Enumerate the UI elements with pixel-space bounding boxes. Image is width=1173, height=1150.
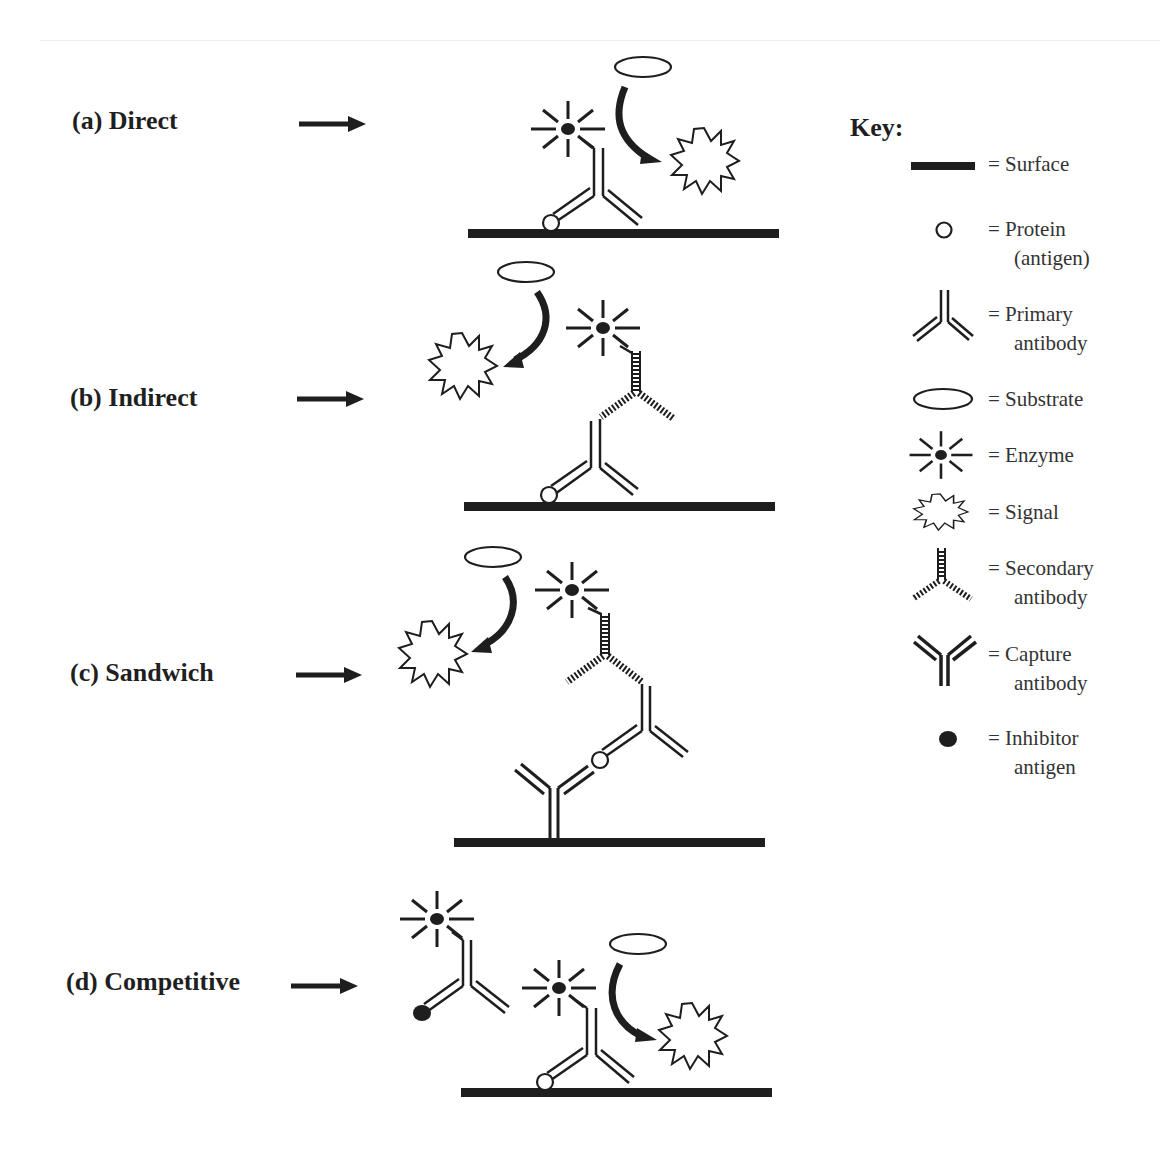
secondary-antibody-icon — [567, 613, 642, 682]
signal-icon — [399, 621, 467, 687]
reaction-arrow-icon — [484, 577, 513, 645]
competitive-assay-diagram — [400, 891, 772, 1097]
substrate-icon — [615, 57, 671, 77]
primary-antibody-icon — [551, 419, 638, 495]
reaction-arrow-icon — [515, 292, 546, 360]
signal-icon — [429, 333, 497, 399]
secondary-antibody-icon — [601, 351, 674, 419]
surface-icon — [461, 1088, 772, 1097]
direct-assay-diagram — [468, 57, 779, 238]
key-primary-antibody-icon — [913, 290, 973, 341]
protein-antigen-icon — [543, 215, 559, 231]
row-arrow-direct — [299, 116, 366, 132]
key-symbols — [910, 162, 976, 747]
sandwich-assay-diagram — [399, 547, 765, 847]
surface-icon — [468, 229, 779, 238]
surface-icon — [464, 502, 775, 511]
inhibitor-antigen-icon — [413, 1005, 431, 1021]
enzyme-icon — [535, 562, 609, 618]
protein-antigen-icon — [592, 752, 608, 768]
key-secondary-antibody-icon — [914, 548, 971, 599]
signal-icon — [659, 1003, 727, 1069]
reaction-arrow-icon — [619, 87, 648, 158]
substrate-icon — [498, 262, 554, 282]
key-enzyme-icon — [910, 431, 973, 479]
primary-antibody-icon — [602, 684, 688, 757]
primary-antibody-icon — [553, 140, 642, 225]
key-surface-icon — [911, 162, 975, 170]
row-arrow-sandwich — [296, 667, 362, 683]
surface-icon — [454, 838, 765, 847]
protein-antigen-icon — [541, 487, 557, 503]
enzyme-icon — [566, 300, 640, 356]
key-capture-antibody-icon — [914, 636, 976, 686]
key-signal-icon — [914, 494, 968, 530]
substrate-icon — [465, 547, 521, 567]
signal-icon — [671, 128, 739, 194]
substrate-icon — [610, 934, 666, 954]
key-inhibitor-antigen-icon — [939, 731, 957, 747]
indirect-assay-diagram — [429, 262, 775, 511]
diagram-canvas — [0, 0, 1173, 1150]
key-substrate-icon — [914, 389, 972, 409]
key-protein-icon — [937, 223, 952, 238]
row-arrow-indirect — [297, 391, 364, 407]
row-arrow-competitive — [291, 978, 358, 994]
capture-antibody-icon — [515, 764, 594, 838]
reaction-arrow-icon — [612, 964, 643, 1037]
protein-antigen-icon — [537, 1074, 553, 1090]
